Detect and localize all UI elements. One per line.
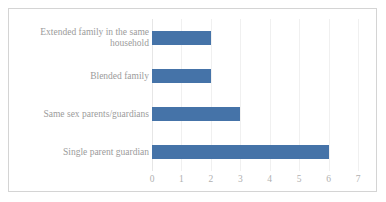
gridline <box>358 19 359 171</box>
category-label: Extended family in the same household <box>17 27 149 49</box>
gridline <box>329 19 330 171</box>
category-label: Same sex parents/guardians <box>17 109 149 120</box>
x-tick-label: 3 <box>238 173 243 185</box>
x-axis-tick-labels: 01234567 <box>152 173 358 187</box>
x-tick-label: 1 <box>179 173 184 185</box>
x-tick-label: 5 <box>297 173 302 185</box>
category-axis-labels: Extended family in the same householdBle… <box>9 19 149 171</box>
x-tick-label: 7 <box>356 173 361 185</box>
x-tick-label: 2 <box>208 173 213 185</box>
plot-area <box>152 19 358 171</box>
bar[interactable] <box>152 107 240 121</box>
bar[interactable] <box>152 31 211 45</box>
bar[interactable] <box>152 145 329 159</box>
x-tick-label: 6 <box>326 173 331 185</box>
x-tick-label: 4 <box>267 173 272 185</box>
chart-frame: Extended family in the same householdBle… <box>8 8 377 192</box>
category-label: Single parent guardian <box>17 147 149 158</box>
bar[interactable] <box>152 69 211 83</box>
x-tick-label: 0 <box>150 173 155 185</box>
category-label: Blended family <box>17 71 149 82</box>
